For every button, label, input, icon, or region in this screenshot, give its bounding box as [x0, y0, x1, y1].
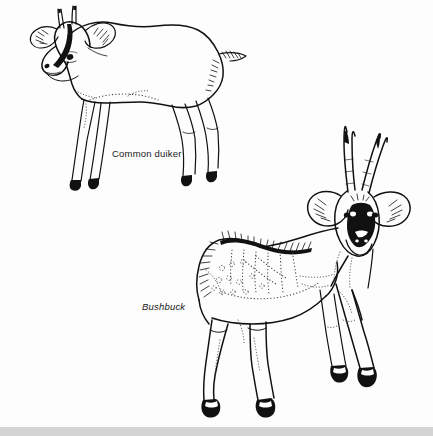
bushbuck-ear-hair-left [314, 199, 330, 221]
duiker-rump-hair [206, 60, 219, 91]
duiker-ear-hair-left [36, 30, 48, 44]
bushbuck-ear-hair-right [387, 200, 402, 222]
illustration-page: Common duiker Bushbuck [0, 0, 433, 436]
bushbuck-body-spots [212, 260, 264, 295]
antelope-plate-artwork [0, 0, 433, 436]
bottom-gray-band [0, 427, 433, 436]
bushbuck-shoulder-mane [199, 242, 218, 297]
duiker-tail-hair [222, 51, 241, 58]
bushbuck-forehead-hair [351, 194, 369, 201]
duiker-ear-hair-right [94, 28, 109, 45]
label-common-duiker: Common duiker [112, 148, 182, 159]
bushbuck-figure [197, 127, 410, 418]
common-duiker-figure [30, 6, 246, 191]
label-bushbuck: Bushbuck [142, 301, 185, 312]
